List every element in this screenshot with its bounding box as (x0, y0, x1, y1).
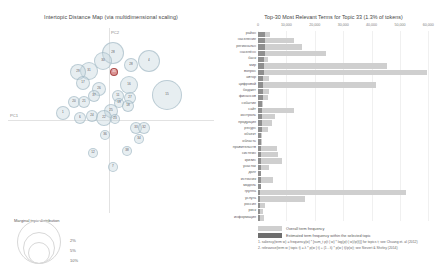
x-axis-tick-label: 40,000 (366, 23, 377, 27)
term-label[interactable]: бюджет (243, 88, 256, 92)
topic-bubble[interactable]: 34 (134, 134, 144, 144)
term-label[interactable]: мир (249, 63, 256, 67)
term-label[interactable]: контроль (240, 113, 256, 117)
term-bar-row[interactable]: модель (258, 184, 434, 189)
topic-bubble[interactable]: 21 (78, 96, 90, 108)
term-label[interactable]: объект (244, 132, 256, 136)
topic-bubble[interactable]: 7 (108, 162, 118, 172)
term-bar-row[interactable]: информация (258, 215, 434, 220)
term-label[interactable]: вопрос (244, 69, 256, 73)
topic-bubble-label: 4 (148, 59, 150, 62)
term-label[interactable]: участок (243, 164, 256, 168)
marginal-legend-circle (17, 220, 61, 264)
term-label[interactable]: долг (248, 170, 256, 174)
term-label[interactable]: событие (242, 101, 257, 105)
term-bar-row[interactable]: цифровой (258, 82, 434, 87)
term-bar-row[interactable]: услуга (258, 196, 434, 201)
term-bar-row[interactable]: событие (258, 101, 434, 106)
term-label[interactable]: ресурс (244, 126, 256, 130)
term-bar-row[interactable]: риск (258, 209, 434, 214)
topic-bubble[interactable]: 12 (88, 148, 98, 158)
term-bar-row[interactable]: источник (258, 177, 434, 182)
topic-bubble[interactable]: 28 (124, 58, 138, 72)
bar-selected-frequency (258, 133, 261, 138)
topic-bubble[interactable]: 15 (152, 80, 182, 110)
term-label[interactable]: региональн (236, 44, 256, 48)
term-bar-row[interactable]: россия (258, 203, 434, 208)
topic-bubble[interactable]: 17 (76, 76, 90, 90)
topic-bubble[interactable]: 23 (110, 114, 120, 124)
term-label[interactable]: россия (244, 202, 256, 206)
term-label[interactable]: район (246, 31, 256, 35)
bar-selected-frequency (258, 203, 260, 208)
term-label[interactable]: услуга (245, 196, 256, 200)
topic-bubble-label: 36 (103, 133, 106, 136)
term-label[interactable]: цифровой (239, 82, 256, 86)
term-bar-row[interactable]: объект (258, 133, 434, 138)
term-bar-row[interactable]: долг (258, 171, 434, 176)
term-label[interactable]: область (242, 139, 256, 143)
term-bar-row[interactable]: правительств (258, 146, 434, 151)
x-axis-tick-label: 30,000 (338, 23, 349, 27)
term-bar-row[interactable]: ресурс (258, 127, 434, 132)
bar-overall-frequency (258, 158, 282, 163)
bar-selected-frequency (258, 127, 262, 132)
topic-bubble-label: 12 (91, 151, 94, 154)
term-bar-row[interactable]: население (258, 38, 434, 43)
term-label[interactable]: автор (246, 75, 256, 79)
term-label[interactable]: продукция (238, 120, 256, 124)
term-label[interactable]: модель (243, 183, 256, 187)
term-label[interactable]: источник (241, 177, 256, 181)
term-bar-row[interactable]: контроль (258, 114, 434, 119)
bar-selected-frequency (258, 108, 262, 113)
bar-selected-frequency (258, 146, 261, 151)
topic-bubble[interactable]: 4 (138, 50, 160, 72)
term-bar-row[interactable]: бюджет (258, 89, 434, 94)
term-bar-row[interactable]: группа (258, 190, 434, 195)
topic-bubble[interactable]: 18 (122, 100, 134, 112)
term-label[interactable]: финансов (239, 94, 256, 98)
term-label[interactable]: банк (248, 56, 256, 60)
term-bar-row[interactable]: сайт (258, 108, 434, 113)
topic-bubble-label: 28 (129, 63, 132, 66)
term-bar-row[interactable]: район (258, 32, 434, 37)
term-bar-row[interactable]: мир (258, 63, 434, 68)
topic-bubble-label: 26 (97, 87, 100, 90)
topic-bubble-label: 30 (101, 59, 104, 62)
term-bar-row[interactable]: вопрос (258, 70, 434, 75)
term-label[interactable]: сайт (248, 107, 256, 111)
topic-bubble[interactable]: 38 (122, 146, 132, 156)
bar-overall-frequency (258, 196, 305, 201)
term-bar-row[interactable]: область (258, 139, 434, 144)
bar-selected-frequency (258, 158, 261, 163)
topic-bubble-label: 35 (112, 70, 115, 73)
topic-bubble[interactable]: 6 (74, 112, 86, 124)
term-label[interactable]: риск (248, 208, 256, 212)
term-label[interactable]: группа (245, 189, 256, 193)
term-bar-row[interactable]: участок (258, 165, 434, 170)
term-bar-row[interactable]: системн (258, 152, 434, 157)
term-label[interactable]: системн (242, 151, 256, 155)
term-bar-row[interactable]: кризис (258, 158, 434, 163)
x-axis-tick-label: 60,000 (423, 23, 434, 27)
topic-bubble[interactable]: 35 (110, 68, 118, 76)
topic-bubble[interactable]: 1 (56, 106, 70, 120)
bar-selected-frequency (258, 196, 260, 201)
term-label[interactable]: население (238, 37, 256, 41)
term-label[interactable]: правительств (233, 145, 256, 149)
term-bar-row[interactable]: автор (258, 76, 434, 81)
term-label[interactable]: информация (234, 215, 256, 219)
term-label[interactable]: населённ (240, 50, 256, 54)
marginal-legend-tick: 2% (70, 238, 76, 243)
term-bar-row[interactable]: банк (258, 57, 434, 62)
topic-bubble[interactable]: 36 (100, 130, 110, 140)
topic-scatter-plot[interactable]: PC2 PC1 28304283129351617152637112720211… (8, 28, 214, 213)
term-bar-row[interactable]: населённ (258, 51, 434, 56)
topic-bubble-label: 24 (90, 114, 93, 117)
term-bar-row[interactable]: продукция (258, 120, 434, 125)
bar-overall-frequency (258, 82, 376, 87)
term-bar-row[interactable]: финансов (258, 95, 434, 100)
term-label[interactable]: кризис (245, 158, 256, 162)
topic-bubble[interactable]: 32 (138, 122, 150, 134)
term-bar-row[interactable]: региональн (258, 44, 434, 49)
